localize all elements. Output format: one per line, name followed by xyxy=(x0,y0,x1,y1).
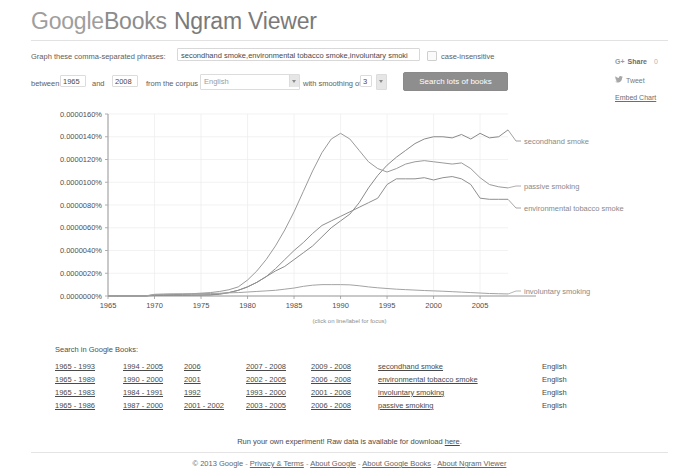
chevron-down-icon xyxy=(289,75,299,87)
footer-separator: - xyxy=(243,459,250,468)
search-button[interactable]: Search lots of books xyxy=(403,72,508,91)
smoothing-chevron-down-icon[interactable] xyxy=(376,74,387,90)
raw-data-suffix: . xyxy=(460,437,462,446)
gplus-share-count: 0 xyxy=(654,58,658,65)
year-range-link[interactable]: 2009 - 2008 xyxy=(311,362,351,371)
x-axis-tick-label: 1980 xyxy=(239,301,256,310)
year-range-link[interactable]: 2003 - 2005 xyxy=(246,401,286,410)
year-range-link[interactable]: 1987 - 2000 xyxy=(123,401,163,410)
chart-line-involuntary-smoking[interactable] xyxy=(108,285,508,296)
year-range-link[interactable]: 1965 - 1989 xyxy=(55,375,95,384)
between-label: between xyxy=(31,79,59,88)
year-range-link[interactable]: 2002 - 2005 xyxy=(246,375,286,384)
chart-series-label[interactable]: secondhand smoke xyxy=(524,137,589,146)
corpus-language-cell: English xyxy=(542,362,567,375)
phrases-input[interactable]: secondhand smoke,environmental tobacco s… xyxy=(177,48,420,61)
table-row: 1965 - 19861987 - 20002001 - 20022003 - … xyxy=(55,401,567,414)
table-row: 1965 - 19831984 - 199119921993 - 2000200… xyxy=(55,388,567,401)
corpus-language-cell: English xyxy=(542,388,567,401)
chart-leader-line xyxy=(508,130,521,141)
corpus-language-cell: English xyxy=(542,401,567,414)
y-axis-tick-label: 0.0000120% xyxy=(60,155,102,164)
smoothing-label: with smoothing of xyxy=(303,79,361,88)
chart-line-passive-smoking[interactable] xyxy=(108,133,508,296)
year-range-link[interactable]: 2001 - 2002 xyxy=(184,401,224,410)
copyright-text: © 2013 Google xyxy=(193,459,244,468)
y-axis-tick-label: 0.0000080% xyxy=(60,201,102,210)
year-range-link[interactable]: 2006 - 2008 xyxy=(311,401,351,410)
y-axis-tick-label: 0.0000000% xyxy=(60,292,102,301)
year-range-link[interactable]: 1965 - 1986 xyxy=(55,401,95,410)
y-axis-tick-label: 0.0000160% xyxy=(60,110,102,119)
chart-series-label[interactable]: passive smoking xyxy=(524,182,579,191)
phrase-link[interactable]: involuntary smoking xyxy=(378,388,444,397)
corpus-language-cell: English xyxy=(542,375,567,388)
phrase-link[interactable]: secondhand smoke xyxy=(378,362,443,371)
year-range-link[interactable]: 2006 - 2008 xyxy=(311,375,351,384)
search-in-books-table: 1965 - 19931994 - 200520062007 - 2008200… xyxy=(55,362,567,414)
logo-ngram-viewer: Ngram Viewer xyxy=(174,8,317,34)
gplus-icon: G+ xyxy=(615,58,625,65)
smoothing-input[interactable]: 3 xyxy=(360,75,372,87)
x-axis-tick-label: 1985 xyxy=(286,301,303,310)
search-in-books-title: Search in Google Books: xyxy=(55,345,138,354)
year-range-link[interactable]: 1990 - 2000 xyxy=(123,375,163,384)
y-axis-tick-label: 0.0000140% xyxy=(60,132,102,141)
y-axis-tick-label: 0.0000100% xyxy=(60,178,102,187)
year-range-link[interactable]: 2001 xyxy=(184,375,201,384)
gplus-share-button[interactable]: G+Share0 xyxy=(615,58,658,65)
x-axis-tick-label: 1970 xyxy=(146,301,163,310)
gplus-share-label: Share xyxy=(628,58,647,65)
year-range-link[interactable]: 2001 - 2008 xyxy=(311,388,351,397)
ngram-chart[interactable]: 0.0000000%0.0000020%0.0000040%0.0000060%… xyxy=(0,105,699,330)
corpus-label: from the corpus xyxy=(146,79,198,88)
year-range-link[interactable]: 1984 - 1991 xyxy=(123,388,163,397)
chart-leader-line xyxy=(508,199,521,208)
footer-link[interactable]: About Google xyxy=(310,459,356,468)
chart-leader-line xyxy=(508,291,521,294)
chart-focus-hint: (click on line/label for focus) xyxy=(0,318,699,324)
year-range-link[interactable]: 1992 xyxy=(184,388,201,397)
logo-books: Books xyxy=(104,8,167,34)
year-range-link[interactable]: 2006 xyxy=(184,362,201,371)
raw-data-prefix: Run your own experiment! Raw data is ava… xyxy=(237,437,445,446)
twitter-bird-icon xyxy=(615,76,623,84)
page-title: GoogleBooksNgram Viewer xyxy=(31,8,317,35)
year-end-input[interactable]: 2008 xyxy=(112,75,138,87)
x-axis-tick-label: 1975 xyxy=(193,301,210,310)
case-insensitive-label[interactable]: case-insensitive xyxy=(441,52,494,61)
phrase-link[interactable]: environmental tobacco smoke xyxy=(378,375,478,384)
raw-data-here-link[interactable]: here xyxy=(445,437,460,446)
chart-canvas[interactable]: 0.0000000%0.0000020%0.0000040%0.0000060%… xyxy=(0,105,699,330)
chart-line-secondhand-smoke[interactable] xyxy=(108,130,508,296)
footer-divider xyxy=(31,452,668,453)
copyright-line: © 2013 Google - Privacy & Terms - About … xyxy=(0,459,699,468)
year-range-link[interactable]: 1994 - 2005 xyxy=(123,362,163,371)
year-start-input[interactable]: 1965 xyxy=(60,75,86,87)
embed-chart-link[interactable]: Embed Chart xyxy=(615,94,656,101)
case-insensitive-checkbox[interactable] xyxy=(427,51,437,61)
year-range-link[interactable]: 1965 - 1993 xyxy=(55,362,95,371)
header-divider xyxy=(31,40,668,41)
x-axis-tick-label: 1990 xyxy=(332,301,349,310)
year-range-link[interactable]: 1965 - 1983 xyxy=(55,388,95,397)
y-axis-tick-label: 0.0000020% xyxy=(60,269,102,278)
tweet-button[interactable]: Tweet xyxy=(615,76,645,84)
footer-link[interactable]: Privacy & Terms xyxy=(250,459,304,468)
x-axis-tick-label: 1965 xyxy=(100,301,117,310)
year-range-link[interactable]: 2007 - 2008 xyxy=(246,362,286,371)
chart-series-label[interactable]: environmental tobacco smoke xyxy=(524,204,624,213)
footer-link[interactable]: About Ngram Viewer xyxy=(437,459,506,468)
x-axis-tick-label: 2000 xyxy=(425,301,442,310)
x-axis-tick-label: 1995 xyxy=(379,301,396,310)
chart-leader-line xyxy=(508,186,521,188)
corpus-select[interactable]: English xyxy=(200,74,300,90)
phrase-link[interactable]: passive smoking xyxy=(378,401,433,410)
table-row: 1965 - 19931994 - 200520062007 - 2008200… xyxy=(55,362,567,375)
year-range-link[interactable]: 1993 - 2000 xyxy=(246,388,286,397)
chart-series-label[interactable]: involuntary smoking xyxy=(524,287,590,296)
phrases-label: Graph these comma-separated phrases: xyxy=(31,52,166,61)
tweet-label: Tweet xyxy=(626,77,645,84)
chart-line-environmental-tobacco-smoke[interactable] xyxy=(108,177,508,296)
footer-link[interactable]: About Google Books xyxy=(362,459,431,468)
